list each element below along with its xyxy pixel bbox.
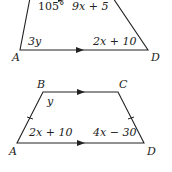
- angle-9x5-label: 9x + 5: [72, 0, 108, 13]
- vertex-b-label: B: [36, 78, 45, 91]
- vertex-a-label: A: [8, 145, 17, 158]
- trapezoid-1: 105° 9x + 5 3y 2x + 10 A D: [11, 0, 160, 64]
- parallel-arrow-icon: [77, 140, 85, 146]
- angle-2x10-label: 2x + 10: [92, 35, 136, 48]
- vertex-c-label: C: [119, 78, 128, 91]
- angle-105-label: 105°: [38, 0, 65, 13]
- parallel-arrow-icon: [77, 89, 85, 95]
- vertex-d-label: D: [146, 145, 156, 158]
- vertex-d-label: D: [150, 51, 160, 64]
- angle-2x10-label: 2x + 10: [28, 126, 72, 139]
- vertex-a-label: A: [11, 51, 20, 64]
- parallel-arrow-icon: [76, 47, 84, 53]
- trapezoid-diagrams: 105° 9x + 5 3y 2x + 10 A D B C A D y 2x …: [0, 0, 172, 172]
- angle-3y-label: 3y: [28, 35, 42, 48]
- angle-y-label: y: [46, 95, 54, 108]
- angle-4x30-label: 4x − 30: [92, 126, 136, 139]
- trapezoid-2: B C A D y 2x + 10 4x − 30: [8, 78, 156, 158]
